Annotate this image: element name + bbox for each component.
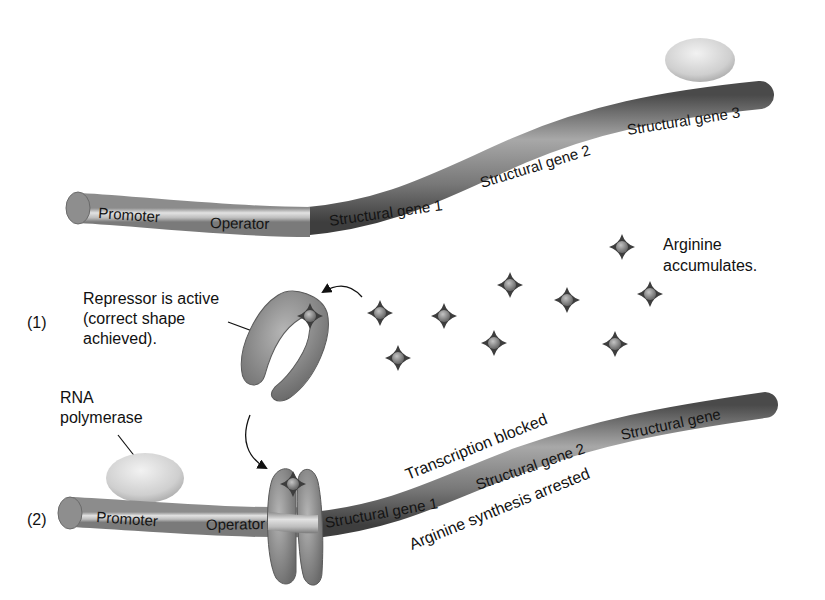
rna-polymerase-label-line2: polymerase [60, 409, 143, 426]
arginine-molecule-icon [637, 281, 663, 307]
step1-number: (1) [27, 314, 47, 331]
step1-label-line3: achieved). [83, 330, 157, 347]
step2-number: (2) [27, 511, 47, 528]
arginine-molecule-icon [609, 234, 635, 260]
arginine-molecule-icon [385, 345, 411, 371]
repressor-move-arrow [246, 415, 266, 468]
arginine-molecules [367, 234, 663, 371]
arginine-label-line1: Arginine [663, 236, 722, 253]
rna-polymerase-blob [106, 453, 184, 503]
arginine-label-line2: accumulates. [663, 257, 757, 274]
rna-polymerase-blob-top [665, 38, 735, 82]
arginine-molecule-icon [497, 272, 523, 298]
arginine-molecule-icon [431, 303, 457, 329]
arginine-molecule-icon [481, 330, 507, 356]
operon-diagram: Promoter Operator Structural gene 1 Stru… [0, 0, 825, 600]
rna-polymerase-label-line1: RNA [60, 389, 94, 406]
step1-label-line1: Repressor is active [83, 290, 219, 307]
top-operator-label: Operator [210, 214, 269, 232]
step1-label-line2: (correct shape [83, 310, 185, 327]
arginine-binding-arrow [323, 286, 362, 297]
active-repressor [228, 278, 343, 409]
arginine-molecule-icon [602, 331, 628, 357]
arginine-molecule-icon [554, 287, 580, 313]
bottom-operator-label: Operator [206, 515, 265, 533]
arginine-molecule-icon [367, 300, 393, 326]
